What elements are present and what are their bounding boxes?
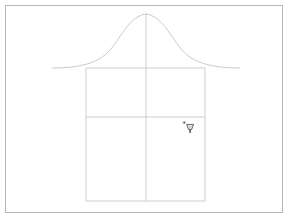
drawing-canvas[interactable] [6, 6, 283, 213]
shape-group [52, 14, 240, 201]
app-window: Untitled Drawing [0, 0, 290, 220]
canvas-frame[interactable] [5, 5, 283, 213]
body-rectangle-shape[interactable] [86, 68, 205, 201]
